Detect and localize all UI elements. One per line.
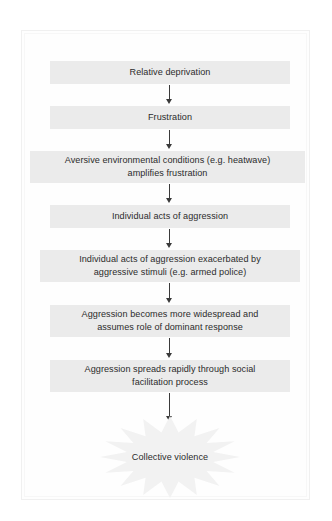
flow-node-individual-acts: Individual acts of aggression xyxy=(50,205,290,228)
flowchart-canvas: Relative deprivation Frustration Aversiv… xyxy=(0,0,332,521)
arrow-head xyxy=(166,198,172,203)
arrow-shaft xyxy=(169,393,170,417)
flow-node-aggression-spreads: Aggression spreads rapidly through socia… xyxy=(50,360,290,392)
arrow-head xyxy=(166,99,172,104)
flow-node-relative-deprivation: Relative deprivation xyxy=(50,61,290,84)
down-arrow-icon xyxy=(163,283,176,304)
down-arrow-icon xyxy=(163,338,176,359)
arrow-shaft xyxy=(169,130,170,145)
arrow-shaft xyxy=(169,229,170,244)
flow-node-individual-acts-exacerbated: Individual acts of aggression exacerbate… xyxy=(40,250,300,282)
arrow-shaft xyxy=(169,184,170,199)
arrow-head xyxy=(166,243,172,248)
flow-node-frustration: Frustration xyxy=(50,106,290,129)
arrow-shaft xyxy=(169,283,170,299)
flow-node-label: Aggression spreads rapidly through socia… xyxy=(85,363,256,388)
flow-node-label: Frustration xyxy=(148,111,192,124)
down-arrow-icon xyxy=(163,229,176,249)
arrow-shaft xyxy=(169,85,170,100)
arrow-head xyxy=(166,298,172,303)
down-arrow-icon xyxy=(163,130,176,150)
arrow-shaft xyxy=(169,338,170,354)
flow-node-aversive-conditions: Aversive environmental conditions (e.g. … xyxy=(30,151,305,183)
flow-terminal-label: Collective violence xyxy=(100,416,240,498)
flow-node-label: Aggression becomes more widespread and a… xyxy=(82,308,259,333)
flow-node-label: Relative deprivation xyxy=(130,66,211,79)
down-arrow-icon xyxy=(163,184,176,204)
flow-node-label: Individual acts of aggression xyxy=(112,210,228,223)
flow-terminal-collective-violence: Collective violence xyxy=(100,416,240,498)
flow-node-label: Individual acts of aggression exacerbate… xyxy=(79,253,261,278)
flow-node-label: Aversive environmental conditions (e.g. … xyxy=(65,154,270,179)
arrow-head xyxy=(166,144,172,149)
flow-node-aggression-widespread: Aggression becomes more widespread and a… xyxy=(50,305,290,337)
arrow-head xyxy=(166,353,172,358)
down-arrow-icon xyxy=(163,85,176,105)
